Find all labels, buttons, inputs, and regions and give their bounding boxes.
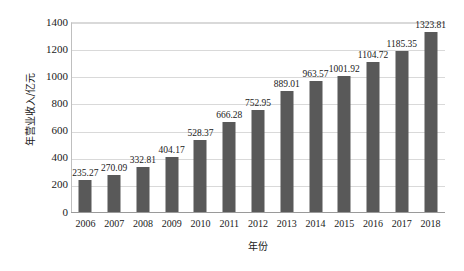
y-axis-tick-label: 1400: [28, 17, 68, 28]
bar-group: 889.01: [272, 22, 301, 212]
y-axis-tick-labels: 0200400600800100012001400: [28, 16, 68, 216]
bar-value-label: 528.37: [187, 128, 213, 138]
x-axis-tick-label: 2016: [359, 218, 388, 230]
y-axis-tick-label: 800: [28, 98, 68, 109]
bar-value-label: 404.17: [159, 145, 185, 155]
bar[interactable]: [338, 76, 351, 212]
bar[interactable]: [79, 180, 92, 212]
x-axis-tick-label: 2006: [71, 218, 100, 230]
bar[interactable]: [395, 51, 408, 212]
bar-group: 404.17: [157, 22, 186, 212]
bar-group: 1323.81: [416, 22, 445, 212]
x-axis-tick-label: 2010: [186, 218, 215, 230]
x-axis-tick-label: 2008: [129, 218, 158, 230]
y-axis-tick-label: 600: [28, 125, 68, 136]
bar-group: 1001.92: [330, 22, 359, 212]
bar[interactable]: [223, 122, 236, 212]
x-axis-tick-label: 2011: [215, 218, 244, 230]
bar-group: 528.37: [186, 22, 215, 212]
bar-value-label: 1185.35: [387, 39, 418, 49]
bar-value-label: 963.57: [302, 69, 328, 79]
bar-group: 332.81: [129, 22, 158, 212]
y-axis-tick-label: 0: [28, 207, 68, 218]
bar[interactable]: [136, 167, 149, 212]
bars-layer: 235.27270.09332.81404.17528.37666.28752.…: [71, 22, 445, 212]
bar-group: 235.27: [71, 22, 100, 212]
bar-group: 752.95: [244, 22, 273, 212]
x-axis-tick-label: 2007: [100, 218, 129, 230]
bar-group: 666.28: [215, 22, 244, 212]
bar[interactable]: [194, 140, 207, 212]
x-axis-tick-labels: 2006200720082009201020112012201320142015…: [71, 218, 445, 234]
bar[interactable]: [367, 62, 380, 212]
x-axis-tick-label: 2013: [272, 218, 301, 230]
bar[interactable]: [424, 32, 437, 212]
bar-value-label: 270.09: [101, 163, 127, 173]
bar[interactable]: [309, 81, 322, 212]
bar-value-label: 889.01: [274, 79, 300, 89]
y-axis-tick-label: 200: [28, 179, 68, 190]
y-axis-tick-label: 1000: [28, 71, 68, 82]
bar-value-label: 1104.72: [358, 50, 389, 60]
bar[interactable]: [108, 175, 121, 212]
bar-group: 1185.35: [387, 22, 416, 212]
bar[interactable]: [280, 91, 293, 212]
bar-group: 270.09: [100, 22, 129, 212]
x-axis-line: [71, 212, 445, 213]
bar-group: 1104.72: [359, 22, 388, 212]
x-axis-tick-label: 2015: [330, 218, 359, 230]
x-axis-tick-label: 2009: [157, 218, 186, 230]
bar-chart: 年营业收入/亿元 0200400600800100012001400 235.2…: [0, 0, 464, 271]
bar-value-label: 1001.92: [329, 64, 360, 74]
y-axis-tick-label: 400: [28, 152, 68, 163]
bar-value-label: 666.28: [216, 110, 242, 120]
x-axis-tick-label: 2018: [416, 218, 445, 230]
bar-value-label: 235.27: [72, 168, 98, 178]
x-axis-title: 年份: [71, 238, 445, 253]
y-axis-tick-label: 1200: [28, 44, 68, 55]
x-axis-tick-label: 2012: [244, 218, 273, 230]
bar-group: 963.57: [301, 22, 330, 212]
bar[interactable]: [251, 110, 264, 212]
bar-value-label: 332.81: [130, 155, 156, 165]
bar-value-label: 752.95: [245, 98, 271, 108]
x-axis-tick-label: 2017: [387, 218, 416, 230]
bar[interactable]: [165, 157, 178, 212]
x-axis-tick-label: 2014: [301, 218, 330, 230]
bar-value-label: 1323.81: [415, 20, 446, 30]
